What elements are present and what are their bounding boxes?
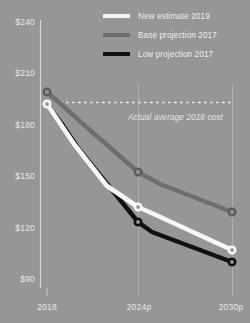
chart-legend: New estimate 2019 Base projection 2017 L… bbox=[103, 11, 217, 59]
line-chart: $240 $210 $180 $150 $120 $90 2018 2024p … bbox=[0, 0, 250, 323]
legend-swatch-icon-base-projection-2017 bbox=[103, 33, 130, 37]
data-point-base-2018 bbox=[44, 89, 51, 96]
data-point-low-2030p bbox=[229, 259, 235, 265]
y-axis-label-1: $210 bbox=[15, 68, 35, 78]
x-axis-label-2024p: 2024p bbox=[127, 302, 152, 312]
data-point-base-2030p bbox=[229, 209, 236, 216]
x-axis-label-2018: 2018 bbox=[37, 302, 57, 312]
data-point-new-2018 bbox=[44, 101, 50, 107]
series-line-new-estimate-2019 bbox=[47, 104, 232, 250]
legend-label-low-projection-2017: Low projection 2017 bbox=[138, 50, 213, 59]
legend-item-low-projection-2017: Low projection 2017 bbox=[103, 49, 217, 59]
series-line-base-projection-2017 bbox=[47, 92, 232, 212]
y-axis-label-2: $180 bbox=[15, 120, 35, 130]
annotation-actual-average-2018-cost: Actual average 2018 cost bbox=[128, 113, 223, 122]
data-point-base-2024p bbox=[135, 169, 142, 176]
data-point-new-2024p bbox=[135, 204, 141, 210]
legend-item-new-estimate-2019: New estimate 2019 bbox=[103, 11, 217, 21]
y-axis-label-0: $240 bbox=[15, 17, 35, 27]
legend-label-new-estimate-2019: New estimate 2019 bbox=[138, 12, 210, 21]
legend-swatch-icon-low-projection-2017 bbox=[103, 52, 130, 56]
y-axis-label-5: $90 bbox=[20, 274, 35, 284]
x-axis-label-2030p: 2030p bbox=[219, 302, 244, 312]
legend-label-base-projection-2017: Base projection 2017 bbox=[138, 31, 217, 40]
y-axis-label-3: $150 bbox=[15, 171, 35, 181]
y-axis-label-4: $120 bbox=[15, 223, 35, 233]
legend-swatch-icon-new-estimate-2019 bbox=[103, 14, 130, 18]
data-point-new-2030p bbox=[229, 247, 235, 253]
legend-item-base-projection-2017: Base projection 2017 bbox=[103, 30, 217, 40]
data-point-low-2024p bbox=[135, 219, 141, 225]
